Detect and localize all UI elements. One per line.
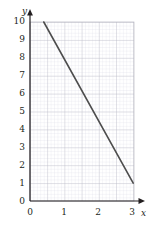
- y-tick-label-8: 8: [6, 53, 25, 62]
- y-tick-label-5: 5: [6, 107, 25, 116]
- y-axis-label: y: [22, 7, 27, 16]
- graph-figure: 10 9 8 7 6 5 4 3 2 1 0 0 1 2 3 y x: [0, 0, 154, 236]
- x-axis-label: x: [141, 209, 146, 218]
- y-tick-label-0: 0: [6, 197, 25, 206]
- y-tick-label-2: 2: [6, 161, 25, 170]
- y-tick-label-10: 10: [6, 17, 25, 26]
- y-tick-label-3: 3: [6, 143, 25, 152]
- x-tick-label-0: 0: [22, 208, 38, 217]
- x-axis-arrowhead: [139, 198, 146, 204]
- y-tick-label-6: 6: [6, 89, 25, 98]
- y-tick-label-1: 1: [6, 179, 25, 188]
- x-tick-label-3: 3: [124, 208, 140, 217]
- y-tick-label-9: 9: [6, 35, 25, 44]
- y-tick-label-7: 7: [6, 71, 25, 80]
- major-gridlines: [30, 22, 134, 201]
- x-tick-label-2: 2: [90, 208, 106, 217]
- y-axis-arrowhead: [27, 9, 33, 16]
- y-tick-label-4: 4: [6, 125, 25, 134]
- x-tick-label-1: 1: [56, 208, 72, 217]
